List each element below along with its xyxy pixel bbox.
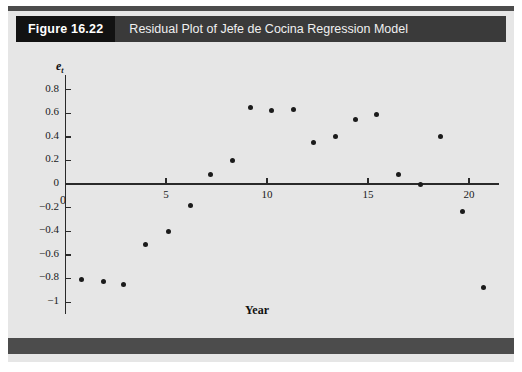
figure-container: Figure 16.22 Residual Plot of Jefe de Co… [0, 0, 522, 372]
figure-plate [8, 6, 514, 362]
figure-number-label: Figure 16.22 [16, 16, 115, 42]
figure-title: Residual Plot of Jefe de Cocina Regressi… [115, 16, 408, 42]
figure-caption-bar: Figure 16.22 Residual Plot of Jefe de Co… [16, 16, 506, 42]
bottom-rule [8, 338, 514, 354]
top-rule [8, 6, 514, 11]
